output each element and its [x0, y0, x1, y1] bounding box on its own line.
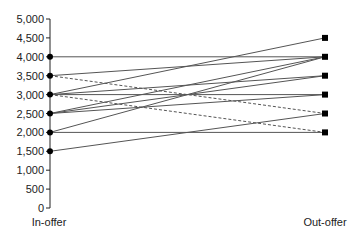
series-line — [50, 57, 325, 114]
y-tick-label: 2,000 — [16, 126, 44, 138]
y-tick-label: 0 — [38, 202, 44, 214]
series-line — [50, 95, 325, 114]
in-offer-marker — [47, 54, 53, 60]
y-tick-label: 1,000 — [16, 164, 44, 176]
out-offer-marker — [322, 92, 328, 98]
in-offer-marker — [47, 73, 53, 79]
series-lines — [50, 38, 325, 151]
out-offer-marker — [322, 54, 328, 60]
y-tick-label: 2,500 — [16, 108, 44, 120]
y-tick-label: 3,500 — [16, 70, 44, 82]
out-offer-marker — [322, 73, 328, 79]
y-axis: 05001,0001,5002,0002,5003,0003,5004,0004… — [16, 13, 50, 214]
in-offer-marker — [47, 111, 53, 117]
x-category-labels: In-offerOut-offer — [32, 216, 347, 228]
y-tick-label: 500 — [26, 183, 44, 195]
out-offer-marker — [322, 111, 328, 117]
y-tick-label: 4,500 — [16, 32, 44, 44]
category-in-offer: In-offer — [32, 216, 67, 228]
out-offer-marker — [322, 129, 328, 135]
category-out-offer: Out-offer — [303, 216, 347, 228]
series-line — [50, 95, 325, 133]
y-tick-label: 4,000 — [16, 51, 44, 63]
y-tick-label: 3,000 — [16, 89, 44, 101]
in-offer-marker — [47, 148, 53, 154]
y-tick-label: 5,000 — [16, 13, 44, 25]
y-tick-label: 1,500 — [16, 145, 44, 157]
in-offer-marker — [47, 92, 53, 98]
series-line — [50, 38, 325, 95]
out-offer-marker — [322, 35, 328, 41]
in-offer-marker — [47, 129, 53, 135]
slope-chart: 05001,0001,5002,0002,5003,0003,5004,0004… — [0, 0, 353, 236]
